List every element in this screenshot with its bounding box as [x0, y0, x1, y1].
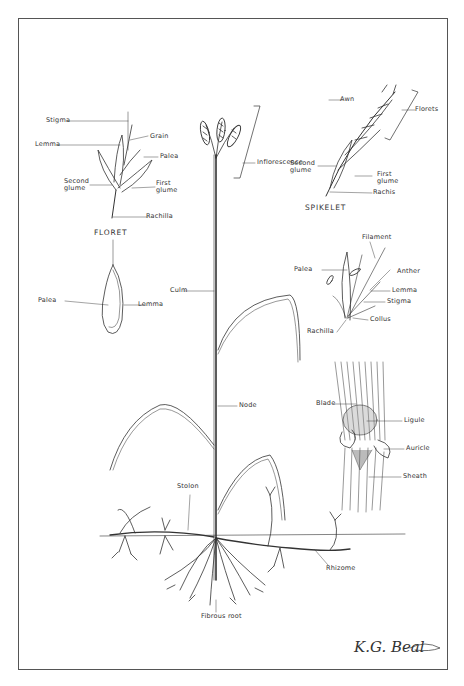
label-collar-ligule: Ligule: [404, 417, 425, 424]
label-flower-filament: Filament: [362, 234, 391, 241]
label-floret-lemma: Lemma: [35, 141, 60, 148]
label-floret-rachilla: Rachilla: [146, 213, 173, 220]
grain-icon: [102, 240, 123, 334]
leaf-blades-icon: [110, 295, 300, 520]
label-flower-rachilla: Rachilla: [307, 328, 334, 335]
grass-plant-illustration: [0, 0, 464, 686]
label-spikelet-first-glume: First glume: [377, 171, 401, 186]
label-inflorescence: Inflorescence: [257, 159, 303, 166]
label-flower-lemma: Lemma: [392, 287, 417, 294]
label-fibrous-root: Fibrous root: [201, 613, 242, 620]
label-grain-lemma: Lemma: [138, 301, 163, 308]
floret-icon: [98, 112, 152, 218]
label-flower-anther: Anther: [397, 268, 420, 275]
fibrous-root-icon: [165, 538, 265, 605]
culm-icon: [214, 155, 216, 580]
label-collar-sheath: Sheath: [403, 473, 427, 480]
label-flower-palea: Palea: [294, 266, 312, 273]
label-collar-blade: Blade: [316, 400, 335, 407]
label-floret-stigma: Stigma: [46, 117, 70, 124]
label-grain-palea: Palea: [38, 297, 56, 304]
label-rhizome: Rhizome: [326, 565, 356, 572]
label-flower-stigma: Stigma: [387, 298, 411, 305]
label-stolon: Stolon: [177, 483, 199, 490]
label-collar-auricle: Auricle: [406, 445, 430, 452]
artist-signature: K.G. Beal: [354, 638, 425, 656]
label-floret-second-glume: Second glume: [64, 178, 92, 193]
label-floret-grain: Grain: [150, 133, 169, 140]
label-spikelet-awn: Awn: [340, 96, 354, 103]
label-culm: Culm: [170, 287, 188, 294]
stolon-icon: [110, 507, 214, 560]
label-node: Node: [239, 402, 257, 409]
caption-floret: FLORET: [94, 228, 127, 237]
caption-spikelet: SPIKELET: [305, 203, 346, 212]
inflorescence-icon: [199, 106, 260, 178]
label-spikelet-rachis: Rachis: [373, 189, 395, 196]
label-floret-first-glume: First glume: [156, 180, 180, 195]
label-spikelet-florets: Florets: [415, 106, 438, 113]
soil-line: [100, 534, 405, 536]
label-floret-palea: Palea: [160, 153, 178, 160]
label-flower-collus: Collus: [370, 316, 391, 323]
collar-icon: [335, 362, 390, 512]
